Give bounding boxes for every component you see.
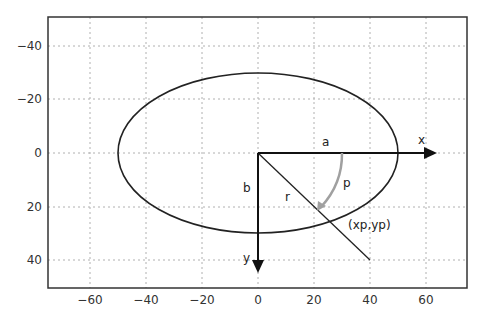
svg-text:20: 20: [27, 200, 42, 214]
svg-text:y: y: [243, 251, 250, 265]
svg-text:(xp,yp): (xp,yp): [348, 218, 391, 232]
svg-text:−60: −60: [77, 293, 102, 307]
svg-text:b: b: [243, 181, 251, 195]
svg-text:20: 20: [306, 293, 321, 307]
y-tick-labels: −40 −20 0 20 40: [17, 39, 42, 267]
svg-text:0: 0: [34, 146, 42, 160]
svg-text:40: 40: [27, 253, 42, 267]
x-tick-labels: −60 −40 −20 0 20 40 60: [77, 293, 433, 307]
svg-text:−20: −20: [189, 293, 214, 307]
svg-text:−40: −40: [133, 293, 158, 307]
svg-text:a: a: [322, 135, 329, 149]
svg-text:−40: −40: [17, 39, 42, 53]
x-axis-arrow: [258, 147, 437, 159]
svg-text:−20: −20: [17, 92, 42, 106]
svg-text:p: p: [343, 176, 351, 190]
svg-text:r: r: [285, 190, 290, 204]
svg-text:60: 60: [418, 293, 433, 307]
angle-p-arc: [317, 153, 342, 211]
svg-text:0: 0: [254, 293, 262, 307]
svg-text:40: 40: [362, 293, 377, 307]
y-axis-arrow: [252, 153, 264, 273]
svg-text:x: x: [418, 133, 425, 147]
ellipse-diagram: −40 −20 0 20 40 −60 −40 −20 0 20 40 60 a…: [0, 0, 487, 319]
